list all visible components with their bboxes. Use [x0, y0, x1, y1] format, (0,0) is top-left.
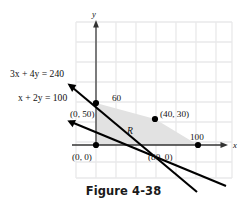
constraint-label-x-2y-100: x + 2y = 100 [18, 92, 67, 103]
y-intercept-label-60: 60 [112, 93, 122, 103]
vertex-point-80-0 [195, 142, 201, 148]
vertex-point-40-30 [152, 116, 158, 122]
vertex-point-0-50 [93, 100, 99, 106]
x-axis-arrowhead [221, 142, 229, 148]
y-axis-arrowhead [93, 20, 99, 28]
point-label-80-0: (80, 0) [148, 152, 173, 162]
y-axis-label: y [91, 9, 96, 19]
region-label-R: R [126, 125, 133, 136]
point-label-0-0: (0, 0) [72, 152, 92, 162]
feasible-region-plot: x y 3x + 4y = 240 x + 2y = 100 60 100 (0… [0, 0, 247, 210]
x-axis-label: x [232, 140, 237, 150]
figure-container: x y 3x + 4y = 240 x + 2y = 100 60 100 (0… [0, 0, 247, 210]
point-label-40-30: (40, 30) [160, 109, 189, 119]
figure-caption: Figure 4-38 [0, 184, 247, 198]
constraint-label-3x-4y-240: 3x + 4y = 240 [10, 68, 64, 79]
x-intercept-label-100: 100 [190, 132, 204, 142]
point-label-0-50: (0, 50) [70, 109, 95, 119]
vertex-point-0-0 [93, 142, 99, 148]
